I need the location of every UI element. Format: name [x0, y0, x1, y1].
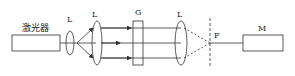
parallel-beams [101, 28, 181, 58]
lens-1-label: L [67, 15, 73, 24]
grating: G [133, 8, 143, 65]
lens-2: L [92, 10, 102, 65]
detector: M [243, 24, 283, 51]
laser-label: 激光器 [22, 22, 49, 33]
detector-label: M [258, 24, 266, 33]
optical-setup-diagram: 激光器 L L G L F [0, 0, 295, 76]
lens-1: L [66, 15, 74, 55]
focus-label: F [214, 31, 220, 40]
grating-label: G [135, 8, 141, 17]
lens-3: L [175, 10, 187, 65]
converging-rays [184, 28, 210, 58]
diverging-rays [77, 28, 96, 58]
lens-2-label: L [92, 10, 98, 19]
lens-3-label: L [177, 10, 183, 19]
laser-source: 激光器 [12, 22, 60, 51]
